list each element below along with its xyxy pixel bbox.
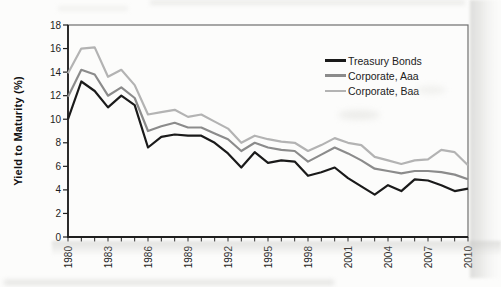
- legend-item-treasury-bonds: Treasury Bonds: [325, 53, 422, 68]
- x-tick-label: 2001: [343, 246, 354, 269]
- corporate-baa-line-swatch: [325, 90, 346, 93]
- x-tick-label: 1992: [223, 246, 234, 269]
- legend: Treasury Bonds Corporate, Aaa Corporate,…: [325, 53, 422, 99]
- x-tick-label: 1989: [183, 246, 194, 269]
- figure-page: 0246810121416181980198319861989199219951…: [0, 0, 501, 287]
- legend-label-treasury-bonds: Treasury Bonds: [348, 55, 422, 67]
- y-tick-label: 16: [50, 43, 62, 54]
- legend-label-corporate-baa: Corporate, Baa: [348, 85, 419, 97]
- y-tick-label: 0: [55, 232, 61, 243]
- chart-svg: 0246810121416181980198319861989199219951…: [0, 0, 501, 287]
- legend-item-corporate-aaa: Corporate, Aaa: [325, 68, 422, 83]
- x-tick-label: 2010: [463, 246, 474, 269]
- x-tick-label: 1980: [63, 246, 74, 269]
- x-tick-label: 1998: [303, 246, 314, 269]
- y-tick-label: 4: [55, 184, 61, 195]
- y-tick-label: 6: [55, 161, 61, 172]
- y-tick-label: 12: [50, 90, 62, 101]
- legend-label-corporate-aaa: Corporate, Aaa: [348, 70, 419, 82]
- y-tick-label: 14: [50, 67, 62, 78]
- x-tick-label: 2004: [383, 246, 394, 269]
- corporate-aaa-line-swatch: [325, 74, 346, 77]
- treasury-bonds-line-swatch: [325, 59, 346, 62]
- y-tick-label: 10: [50, 114, 62, 125]
- x-tick-label: 1986: [143, 246, 154, 269]
- x-tick-label: 1983: [103, 246, 114, 269]
- x-tick-label: 1995: [263, 246, 274, 269]
- y-tick-label: 8: [55, 137, 61, 148]
- y-tick-label: 18: [50, 20, 62, 31]
- legend-item-corporate-baa: Corporate, Baa: [325, 83, 422, 98]
- y-tick-label: 2: [55, 208, 61, 219]
- x-tick-label: 2007: [423, 246, 434, 269]
- y-axis-title: Yield to Maturity (%): [12, 41, 26, 221]
